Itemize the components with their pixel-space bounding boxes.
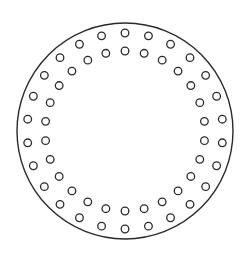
hole: [202, 72, 210, 80]
hole: [98, 222, 106, 230]
hole: [158, 198, 166, 206]
hole: [30, 92, 38, 100]
hole: [187, 173, 195, 181]
hole: [145, 32, 153, 40]
hole-rings: [24, 29, 226, 233]
hole: [167, 214, 175, 222]
hole: [102, 50, 110, 58]
hole: [218, 115, 226, 123]
hole: [121, 29, 129, 37]
outer-ring: [24, 29, 226, 233]
hole: [213, 92, 221, 100]
hole: [46, 156, 54, 164]
hole: [140, 205, 148, 213]
hole: [68, 67, 76, 75]
hole: [24, 115, 32, 123]
hole: [121, 207, 129, 215]
hole: [41, 72, 49, 80]
hole: [56, 201, 64, 209]
hole: [46, 99, 54, 107]
hole: [84, 56, 92, 64]
hole: [55, 173, 63, 181]
hole: [76, 40, 84, 48]
hole: [174, 67, 182, 75]
hole: [158, 56, 166, 64]
hole: [41, 183, 49, 191]
hole: [42, 137, 50, 145]
hole: [201, 118, 209, 126]
hole: [140, 50, 148, 58]
hole: [76, 214, 84, 222]
hole-pattern-diagram: [0, 0, 248, 261]
hole: [121, 225, 129, 233]
hole: [56, 54, 64, 62]
hole: [186, 201, 194, 209]
hole: [187, 82, 195, 90]
hole: [121, 47, 129, 55]
inner-ring: [42, 47, 208, 215]
hole: [167, 40, 175, 48]
hole: [98, 32, 106, 40]
hole: [42, 118, 50, 126]
hole: [218, 139, 226, 147]
hole: [201, 137, 209, 145]
hole: [196, 156, 204, 164]
hole: [30, 162, 38, 170]
hole: [202, 183, 210, 191]
hole: [102, 205, 110, 213]
hole: [145, 222, 153, 230]
hole: [68, 187, 76, 195]
hole: [186, 54, 194, 62]
hole: [84, 198, 92, 206]
hole: [196, 99, 204, 107]
hole: [55, 82, 63, 90]
hole: [174, 187, 182, 195]
hole: [24, 139, 32, 147]
hole: [213, 162, 221, 170]
